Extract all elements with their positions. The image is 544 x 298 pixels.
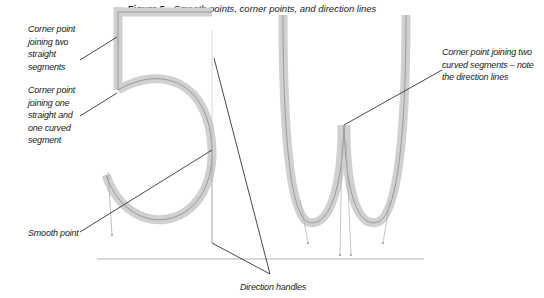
glyph-5 <box>106 7 212 243</box>
label-smooth-point: Smooth point <box>28 227 108 240</box>
glyph-w <box>283 15 406 256</box>
leader-lines <box>80 37 442 274</box>
label-corner-mixed: Corner point joining one straight and on… <box>28 84 82 147</box>
label-corner-straight: Corner point joining two straight segmen… <box>28 23 82 73</box>
label-corner-curved: Corner point joining two curved segments… <box>442 46 538 84</box>
label-direction-handles: Direction handles <box>240 281 330 294</box>
